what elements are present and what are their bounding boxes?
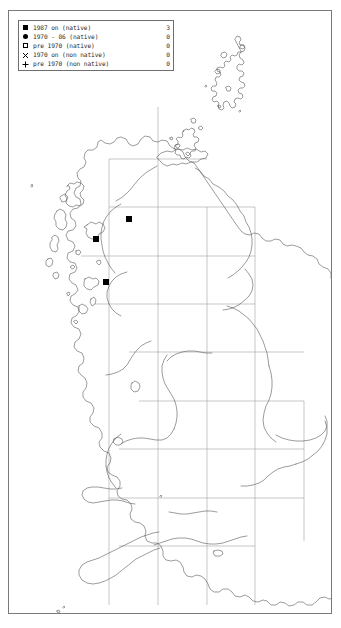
filled-circle-icon bbox=[22, 32, 31, 41]
legend-row: pre 1970 (non native) 0 bbox=[22, 59, 170, 68]
legend-label: 1987 on (native) bbox=[33, 23, 158, 32]
legend-count: 0 bbox=[158, 50, 170, 59]
legend-row: 1970 on (non native) 0 bbox=[22, 50, 170, 59]
outer-hebrides bbox=[46, 182, 84, 279]
cross-icon bbox=[22, 50, 31, 59]
legend-count: 0 bbox=[158, 59, 170, 68]
legend-label: pre 1970 (non native) bbox=[33, 59, 158, 68]
legend-label: pre 1970 (native) bbox=[33, 41, 158, 50]
legend-count: 3 bbox=[158, 23, 170, 32]
legend-count: 0 bbox=[158, 41, 170, 50]
plus-icon bbox=[22, 59, 31, 68]
legend-row: 1987 on (native) 3 bbox=[22, 23, 170, 32]
legend-count: 0 bbox=[158, 32, 170, 41]
map-legend: 1987 on (native) 3 1970 - 86 (native) 0 … bbox=[18, 20, 174, 71]
map-grid bbox=[81, 107, 304, 605]
open-square-icon bbox=[22, 41, 31, 50]
stray-marks bbox=[31, 184, 162, 497]
legend-row: 1970 - 86 (native) 0 bbox=[22, 32, 170, 41]
legend-row: pre 1970 (native) 0 bbox=[22, 41, 170, 50]
distribution-map-page: 1987 on (native) 3 1970 - 86 (native) 0 … bbox=[0, 0, 341, 628]
legend-label: 1970 on (non native) bbox=[33, 50, 158, 59]
britain-coast-detail bbox=[79, 148, 327, 584]
map-frame: 1987 on (native) 3 1970 - 86 (native) 0 … bbox=[8, 10, 332, 614]
filled-square-icon bbox=[22, 23, 31, 32]
map-marker-record-1 bbox=[126, 216, 132, 222]
map-canvas bbox=[9, 11, 331, 613]
great-britain-outline bbox=[66, 136, 331, 606]
legend-label: 1970 - 86 (native) bbox=[33, 32, 158, 41]
shetland-islands bbox=[205, 36, 245, 112]
map-marker-record-3 bbox=[103, 279, 109, 285]
orkney-islands bbox=[170, 118, 203, 159]
map-marker-record-2 bbox=[93, 236, 99, 242]
smaller-islands bbox=[57, 381, 223, 613]
